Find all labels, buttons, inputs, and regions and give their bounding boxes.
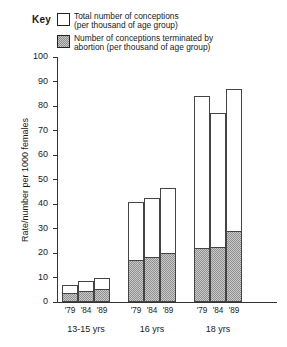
bar-total bbox=[210, 113, 226, 302]
y-tick-mark bbox=[53, 277, 57, 278]
x-tick-label-year: '79 bbox=[128, 306, 144, 315]
x-group-label: 18 yrs bbox=[194, 324, 242, 334]
x-tick-label-year: '84 bbox=[78, 306, 94, 315]
x-tick-label-year: '89 bbox=[226, 306, 242, 315]
bar-total bbox=[194, 96, 210, 302]
x-tick-label-year: '89 bbox=[94, 306, 110, 315]
bar-total bbox=[78, 281, 94, 302]
x-group-label: 13-15 yrs bbox=[62, 324, 110, 334]
y-tick-mark bbox=[53, 228, 57, 229]
y-tick-label: 60 bbox=[22, 150, 48, 159]
x-tick-label-year: '79 bbox=[194, 306, 210, 315]
y-tick-label: 0 bbox=[22, 297, 48, 306]
x-tick-label-year: '89 bbox=[160, 306, 176, 315]
bar-abortion-segment bbox=[94, 289, 110, 302]
y-tick-label: 30 bbox=[22, 224, 48, 233]
y-tick-label: 20 bbox=[22, 248, 48, 257]
bar-abortion-segment bbox=[78, 291, 94, 302]
y-tick-label: 100 bbox=[22, 52, 48, 61]
bar-total bbox=[160, 188, 176, 302]
bar-abortion-segment bbox=[226, 231, 242, 302]
y-tick-mark bbox=[53, 106, 57, 107]
bar-abortion-segment bbox=[144, 257, 160, 302]
y-tick-label: 50 bbox=[22, 175, 48, 184]
bar-total bbox=[144, 198, 160, 302]
x-axis-line bbox=[57, 302, 277, 303]
bar-abortion-segment bbox=[160, 253, 176, 302]
bar-total bbox=[62, 285, 78, 302]
y-tick-mark bbox=[53, 57, 57, 58]
bar-total bbox=[128, 202, 144, 302]
y-tick-mark bbox=[53, 253, 57, 254]
bar-abortion-segment bbox=[62, 293, 78, 302]
bar-abortion-segment bbox=[128, 260, 144, 302]
bar-abortion-segment bbox=[210, 247, 226, 302]
bar-total bbox=[226, 89, 242, 302]
y-tick-label: 70 bbox=[22, 126, 48, 135]
y-tick-mark bbox=[53, 179, 57, 180]
bar-abortion-segment bbox=[194, 248, 210, 302]
y-tick-mark bbox=[53, 302, 57, 303]
y-tick-label: 80 bbox=[22, 101, 48, 110]
y-tick-mark bbox=[53, 130, 57, 131]
y-tick-label: 10 bbox=[22, 273, 48, 282]
x-tick-label-year: '84 bbox=[144, 306, 160, 315]
y-tick-label: 90 bbox=[22, 77, 48, 86]
bar-chart: Rate/number per 1000 females 01020304050… bbox=[0, 0, 287, 347]
x-tick-label-year: '84 bbox=[210, 306, 226, 315]
y-tick-mark bbox=[53, 155, 57, 156]
y-axis-line bbox=[57, 57, 58, 303]
y-tick-mark bbox=[53, 204, 57, 205]
y-tick-label: 40 bbox=[22, 199, 48, 208]
x-group-label: 16 yrs bbox=[128, 324, 176, 334]
y-tick-mark bbox=[53, 81, 57, 82]
bar-total bbox=[94, 278, 110, 303]
x-tick-label-year: '79 bbox=[62, 306, 78, 315]
